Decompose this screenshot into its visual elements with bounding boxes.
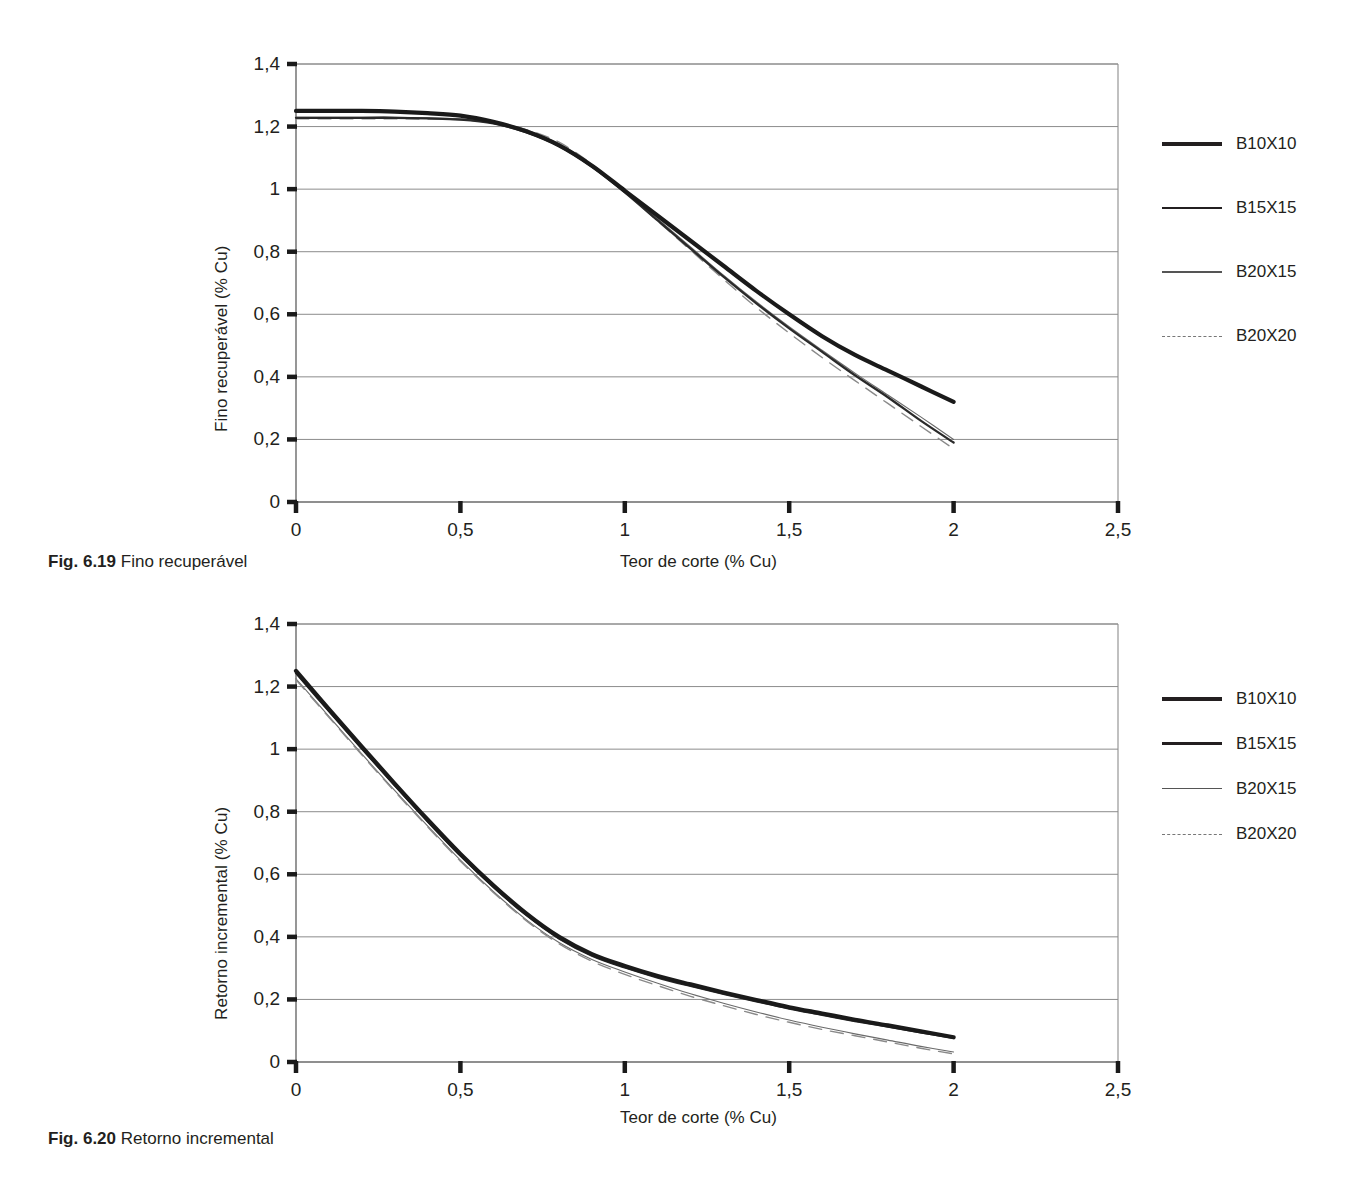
legend-item-label: B20X15 [1236, 262, 1297, 282]
series-line-b20x20 [296, 119, 954, 449]
legend-line-dashed-icon [1162, 329, 1222, 343]
y-tick-label: 1,2 [254, 116, 280, 137]
legend-line-thick-icon [1162, 137, 1222, 151]
plot-area-chart-1: 00,20,40,60,811,21,400,511,522,5 [236, 40, 1136, 540]
y-tick-label: 1 [269, 178, 280, 199]
x-tick-label: 1,5 [776, 519, 802, 540]
y-tick-label: 0,8 [254, 801, 280, 822]
legend-item-b20x20[interactable]: B20X20 [1162, 811, 1297, 856]
figure-retorno-incremental: Retorno incremental (% Cu) 00,20,40,60,8… [0, 578, 1358, 1196]
legend-item-b15x15[interactable]: B15X15 [1162, 176, 1297, 240]
chart-canvas-retorno-incremental: 00,20,40,60,811,21,400,511,522,5 [236, 600, 1136, 1100]
x-axis-title-chart-1: Teor de corte (% Cu) [620, 552, 777, 572]
x-tick-label: 2,5 [1105, 1079, 1131, 1100]
figure-caption-1: Fig. 6.19 Fino recuperável [48, 552, 247, 572]
y-tick-label: 1,4 [254, 53, 281, 74]
series-line-b20x15 [296, 117, 954, 439]
legend-line-thick-icon [1162, 692, 1222, 706]
legend-line-dashed-icon [1162, 827, 1222, 841]
y-tick-label: 1 [269, 738, 280, 759]
legend-line-medium-icon [1162, 201, 1222, 215]
x-tick-label: 1 [620, 1079, 631, 1100]
legend-item-label: B20X20 [1236, 326, 1297, 346]
x-tick-label: 1 [620, 519, 631, 540]
y-tick-label: 0,6 [254, 303, 280, 324]
y-tick-label: 0,2 [254, 988, 280, 1009]
legend-item-label: B20X15 [1236, 779, 1297, 799]
legend-chart-2: B10X10B15X15B20X15B20X20 [1162, 676, 1297, 856]
figure-caption-2-text: Retorno incremental [121, 1129, 274, 1148]
plot-area-chart-2: 00,20,40,60,811,21,400,511,522,5 [236, 600, 1136, 1100]
x-tick-label: 2,5 [1105, 519, 1131, 540]
legend-item-b20x15[interactable]: B20X15 [1162, 240, 1297, 304]
y-tick-label: 0,4 [254, 366, 281, 387]
series-line-b10x10 [296, 671, 954, 1037]
x-tick-label: 0 [291, 1079, 302, 1100]
x-tick-label: 1,5 [776, 1079, 802, 1100]
legend-item-b10x10[interactable]: B10X10 [1162, 676, 1297, 721]
y-tick-label: 1,4 [254, 613, 281, 634]
y-tick-label: 1,2 [254, 676, 280, 697]
chart-canvas-fino-recuperavel: 00,20,40,60,811,21,400,511,522,5 [236, 40, 1136, 540]
y-tick-label: 0,6 [254, 863, 280, 884]
x-tick-label: 0,5 [447, 519, 473, 540]
y-tick-label: 0 [269, 491, 280, 512]
y-axis-title-chart-1: Fino recuperável (% Cu) [212, 245, 232, 432]
figure-caption-1-text: Fino recuperável [121, 552, 248, 571]
legend-item-label: B10X10 [1236, 689, 1297, 709]
legend-item-b15x15[interactable]: B15X15 [1162, 721, 1297, 766]
legend-item-label: B15X15 [1236, 734, 1297, 754]
figure-caption-2-number: Fig. 6.20 [48, 1129, 116, 1148]
series-line-b20x20 [296, 680, 954, 1054]
legend-line-thin-icon [1162, 265, 1222, 279]
legend-line-medium-icon [1162, 737, 1222, 751]
figure-fino-recuperavel: Fino recuperável (% Cu) 00,20,40,60,811,… [0, 0, 1358, 600]
legend-line-thin-icon [1162, 782, 1222, 796]
series-line-b15x15 [296, 118, 954, 443]
x-axis-title-chart-2: Teor de corte (% Cu) [620, 1108, 777, 1128]
legend-item-label: B10X10 [1236, 134, 1297, 154]
x-tick-label: 0 [291, 519, 302, 540]
series-line-b20x15 [296, 679, 954, 1052]
legend-item-b20x15[interactable]: B20X15 [1162, 766, 1297, 811]
legend-item-label: B20X20 [1236, 824, 1297, 844]
y-tick-label: 0,4 [254, 926, 281, 947]
figure-caption-1-number: Fig. 6.19 [48, 552, 116, 571]
figure-caption-2: Fig. 6.20 Retorno incremental [48, 1129, 274, 1149]
y-tick-label: 0,2 [254, 428, 280, 449]
legend-item-b10x10[interactable]: B10X10 [1162, 112, 1297, 176]
y-tick-label: 0 [269, 1051, 280, 1072]
x-tick-label: 2 [948, 1079, 959, 1100]
y-axis-title-chart-2: Retorno incremental (% Cu) [212, 807, 232, 1020]
y-tick-label: 0,8 [254, 241, 280, 262]
series-line-b15x15 [296, 673, 954, 1038]
legend-item-b20x20[interactable]: B20X20 [1162, 304, 1297, 368]
legend-item-label: B15X15 [1236, 198, 1297, 218]
legend-chart-1: B10X10B15X15B20X15B20X20 [1162, 112, 1297, 368]
x-tick-label: 2 [948, 519, 959, 540]
x-tick-label: 0,5 [447, 1079, 473, 1100]
series-line-b10x10 [296, 111, 954, 402]
